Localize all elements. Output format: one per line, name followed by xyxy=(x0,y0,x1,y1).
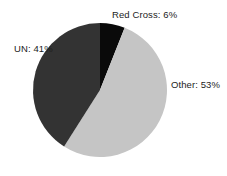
pie-chart-figure: Red Cross: 6% UN: 41% Other: 53% xyxy=(0,0,227,176)
pie-label-red-cross: Red Cross: 6% xyxy=(112,9,177,20)
pie-slice-group xyxy=(33,23,167,157)
pie-label-other: Other: 53% xyxy=(171,79,220,90)
pie-label-un: UN: 41% xyxy=(14,43,53,54)
